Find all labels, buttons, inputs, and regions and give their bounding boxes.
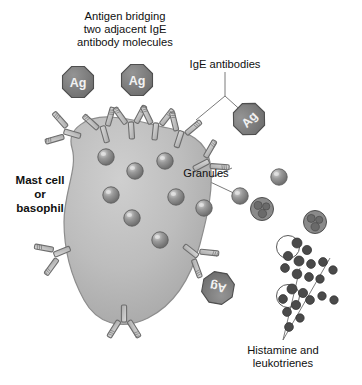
antigen-octagon: Ag xyxy=(122,65,153,96)
label-antigen-bridging: Antigen bridging two adjacent IgE antibo… xyxy=(77,10,173,48)
antigen-label: Ag xyxy=(209,279,228,296)
granule-with-contents xyxy=(304,211,327,234)
granule xyxy=(168,189,184,205)
granule xyxy=(271,169,287,185)
diagram-canvas: Ag Ag Ag Ag xyxy=(0,0,362,385)
label-line: Histamine and xyxy=(247,344,319,356)
label-ige-antibodies: IgE antibodies xyxy=(190,58,261,70)
granule xyxy=(124,210,140,226)
label-granules: Granules xyxy=(183,167,229,179)
mast-cell-degranulation-diagram: Ag Ag Ag Ag xyxy=(0,0,362,385)
label-line: antibody molecules xyxy=(77,36,173,48)
granule xyxy=(152,232,168,248)
antigen-label: Ag xyxy=(70,76,87,90)
granule-with-contents xyxy=(251,198,274,221)
granule xyxy=(196,200,212,216)
label-line: Antigen bridging xyxy=(85,10,166,22)
label-line: or xyxy=(34,187,46,200)
antigen-label: Ag xyxy=(129,74,146,88)
granule xyxy=(127,163,143,179)
granule xyxy=(157,153,173,169)
label-histamine: Histamine and leukotrienes xyxy=(247,344,319,369)
antigen-octagon: Ag xyxy=(63,67,94,98)
label-line: leukotrienes xyxy=(253,357,314,369)
granule xyxy=(98,149,114,165)
label-line: Mast cell xyxy=(16,173,65,186)
label-line: two adjacent IgE xyxy=(84,23,167,35)
label-line: basophil xyxy=(16,201,64,214)
granule xyxy=(232,188,248,204)
granule xyxy=(103,187,119,203)
